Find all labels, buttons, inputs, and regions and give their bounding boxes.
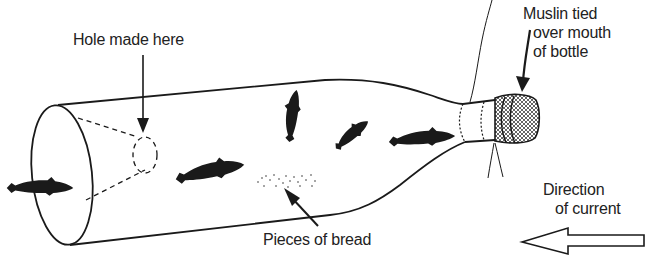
muslin-label-line3: of bottle: [523, 42, 611, 61]
open-base: [25, 102, 99, 248]
bread-label: Pieces of bread: [263, 230, 371, 249]
muslin-label-line1: Muslin tied: [523, 4, 611, 23]
current-label: Direction of current: [543, 180, 621, 218]
string: [470, 0, 503, 178]
muslin-cap: [495, 94, 539, 143]
fish-trap-diagram: Hole made here Muslin tied over mouth of…: [0, 0, 650, 272]
fish-1: [173, 153, 246, 188]
fish-2: [280, 89, 304, 143]
current-arrow: [522, 228, 644, 254]
bread: [257, 174, 316, 188]
hole-arrow: [137, 55, 149, 133]
hole-ellipse: [133, 137, 157, 173]
hole-label-text: Hole made here: [73, 30, 184, 49]
muslin-label: Muslin tied over mouth of bottle: [523, 4, 611, 61]
bread-label-text: Pieces of bread: [263, 230, 371, 249]
fish-4: [388, 125, 456, 149]
bottle: [25, 80, 495, 248]
muslin-label-line2: over mouth: [523, 23, 611, 42]
hole-label: Hole made here: [73, 30, 184, 49]
fish-3: [330, 115, 372, 154]
current-label-line2: of current: [543, 199, 621, 218]
fish-outside: [7, 177, 74, 196]
current-label-line1: Direction: [543, 180, 621, 199]
